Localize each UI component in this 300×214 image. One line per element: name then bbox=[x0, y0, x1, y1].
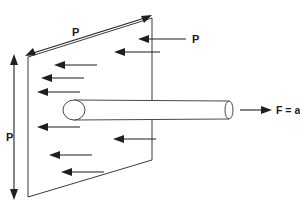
resultant-force-label: F = aS bbox=[276, 104, 300, 116]
top-pressure-label: P bbox=[72, 26, 79, 38]
top-pressure-arrow bbox=[25, 15, 152, 56]
cylindrical-rod bbox=[63, 100, 233, 120]
pressure-arrow-9 bbox=[61, 168, 104, 176]
pressure-arrow-2 bbox=[114, 48, 160, 56]
top-arrow-head-left bbox=[25, 48, 36, 56]
left-arrow-head-down bbox=[10, 189, 18, 200]
pressure-arrow-5 bbox=[37, 88, 80, 96]
pressure-arrow-4 bbox=[41, 74, 84, 82]
pressure-arrow-3 bbox=[54, 61, 97, 69]
rod-body-fill bbox=[74, 100, 228, 120]
pressure-arrow-7 bbox=[113, 135, 156, 143]
left-pressure-label: P bbox=[6, 131, 13, 143]
pressure-arrow-1 bbox=[138, 35, 186, 43]
pressure-arrow-6 bbox=[37, 123, 80, 131]
diagram-canvas: P P bbox=[0, 0, 300, 214]
rod-left-end-cap bbox=[63, 100, 85, 120]
pressure-load-diagram: P P bbox=[0, 0, 300, 214]
force-arrow-head bbox=[261, 106, 272, 114]
region-top-edge bbox=[28, 18, 152, 57]
top-arrow-shaft bbox=[30, 17, 148, 54]
resultant-force-arrow bbox=[240, 106, 272, 114]
pressure-arrow-8 bbox=[49, 151, 92, 159]
region-bottom-edge bbox=[28, 160, 152, 197]
left-arrow-head-up bbox=[10, 54, 18, 65]
left-pressure-arrow bbox=[10, 54, 18, 200]
rod-right-end-cap bbox=[225, 101, 233, 119]
right-pressure-label: P bbox=[192, 33, 199, 45]
